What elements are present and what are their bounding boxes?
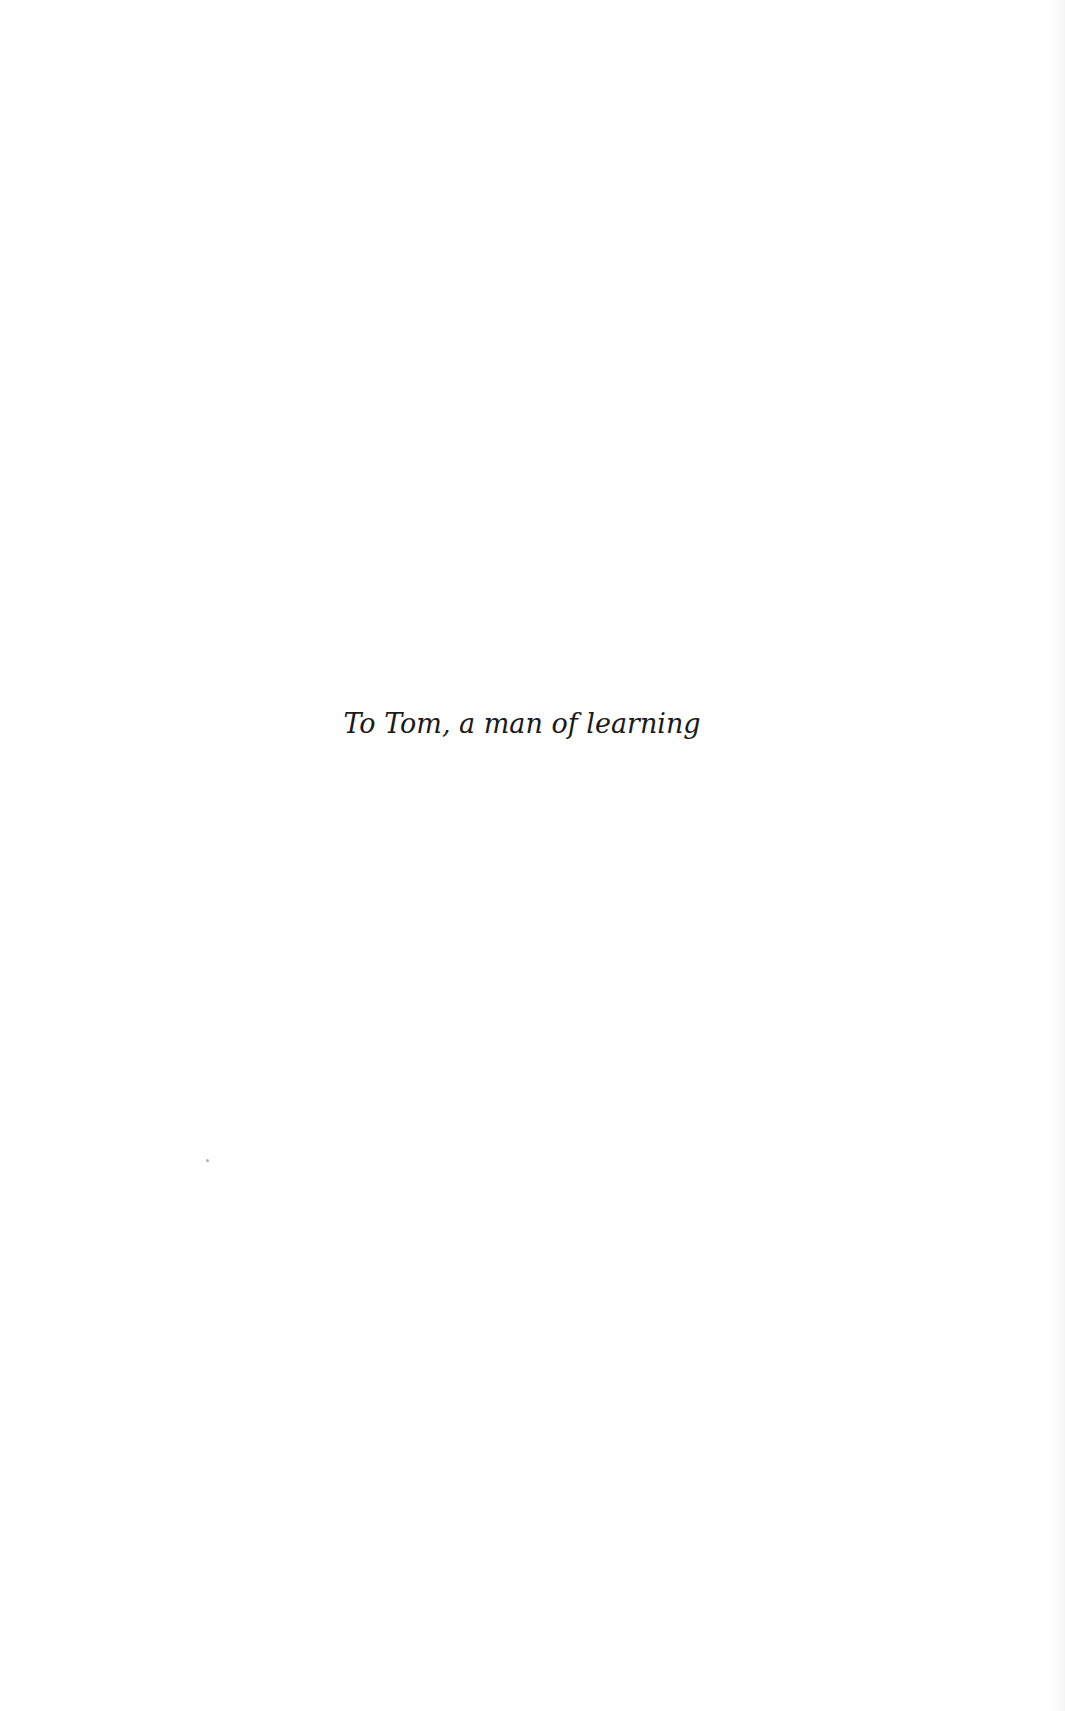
scan-speck <box>206 1159 209 1162</box>
page-edge-shadow <box>1051 0 1065 1711</box>
book-page: To Tom, a man of learning <box>0 0 1065 1711</box>
dedication-text: To Tom, a man of learning <box>0 704 1044 744</box>
